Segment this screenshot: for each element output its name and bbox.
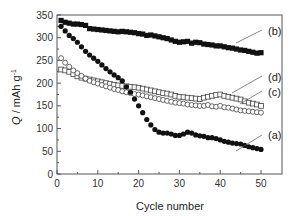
annotation-label: (a) xyxy=(268,129,281,141)
data-point xyxy=(148,122,153,127)
x-tick-label: 50 xyxy=(255,178,267,189)
y-tick-label: 250 xyxy=(36,55,53,66)
data-point xyxy=(116,75,121,80)
x-tick-label: 40 xyxy=(215,178,227,189)
data-point xyxy=(258,50,263,55)
data-point xyxy=(95,59,100,64)
leader-line xyxy=(232,76,262,93)
x-tick-label: 0 xyxy=(54,178,60,189)
y-tick-label: 150 xyxy=(36,100,53,111)
y-tick-label: 0 xyxy=(47,169,53,180)
data-point xyxy=(144,117,149,122)
annotation-b: (b) xyxy=(236,25,281,43)
data-point xyxy=(258,147,263,152)
series-c xyxy=(59,56,264,116)
x-tick-label: 10 xyxy=(92,178,104,189)
data-point xyxy=(107,69,112,74)
data-point xyxy=(87,52,92,57)
data-series xyxy=(58,18,263,152)
data-point xyxy=(132,96,137,101)
annotation-label: (d) xyxy=(268,71,281,83)
annotation-label: (b) xyxy=(268,25,281,37)
capacity-vs-cycle-chart: 050100150200250300350 01020304050 (b)(d)… xyxy=(0,0,292,216)
y-tick-label: 350 xyxy=(36,10,53,21)
leader-line xyxy=(236,30,262,43)
y-tick-label: 200 xyxy=(36,78,53,89)
data-point xyxy=(75,40,80,45)
data-point xyxy=(128,90,133,95)
x-tick-label: 20 xyxy=(133,178,145,189)
data-point xyxy=(67,64,72,69)
data-point xyxy=(58,24,63,29)
series-annotations: (b)(d)(c)(a) xyxy=(232,25,281,151)
data-point xyxy=(79,44,84,49)
data-point xyxy=(83,49,88,54)
series-a xyxy=(58,24,263,152)
y-tick-label: 100 xyxy=(36,123,53,134)
data-point xyxy=(259,103,264,108)
x-tick-label: 30 xyxy=(174,178,186,189)
y-tick-label: 300 xyxy=(36,32,53,43)
data-point xyxy=(99,62,104,67)
series-d xyxy=(59,67,264,108)
y-tick-label: 50 xyxy=(42,146,54,157)
y-axis-title: Q / mAh g-1 xyxy=(10,69,22,125)
data-point xyxy=(67,33,72,38)
data-point xyxy=(71,36,76,41)
data-point xyxy=(103,66,108,71)
series-b xyxy=(58,18,263,56)
data-point xyxy=(63,28,68,33)
x-axis: 01020304050 xyxy=(54,170,267,189)
data-point xyxy=(140,110,145,115)
data-point xyxy=(259,110,264,115)
data-point xyxy=(120,78,125,83)
annotation-label: (c) xyxy=(268,86,281,98)
data-point xyxy=(59,56,64,61)
data-point xyxy=(124,84,129,89)
data-point xyxy=(91,56,96,61)
x-axis-title: Cycle number xyxy=(136,200,204,212)
data-point xyxy=(63,60,68,65)
data-point xyxy=(136,103,141,108)
